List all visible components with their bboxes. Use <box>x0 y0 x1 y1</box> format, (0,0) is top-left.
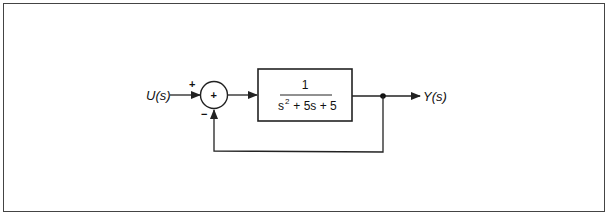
feedback-minus-sign: − <box>201 108 207 120</box>
summing-center-sign: + <box>211 89 217 101</box>
transfer-function-block: 1 s 2 + 5s + 5 <box>258 69 352 121</box>
tf-denominator-s: s <box>278 99 284 113</box>
input-label: U(s) <box>146 88 171 103</box>
block-diagram: U(s) + + − 1 s 2 + 5s + 5 Y(s) <box>0 0 610 216</box>
tf-denominator-rest: + 5s + 5 <box>290 99 337 113</box>
tf-numerator: 1 <box>302 78 309 92</box>
output-label: Y(s) <box>423 89 447 104</box>
input-plus-sign: + <box>189 78 195 90</box>
summing-junction: + <box>201 82 228 109</box>
